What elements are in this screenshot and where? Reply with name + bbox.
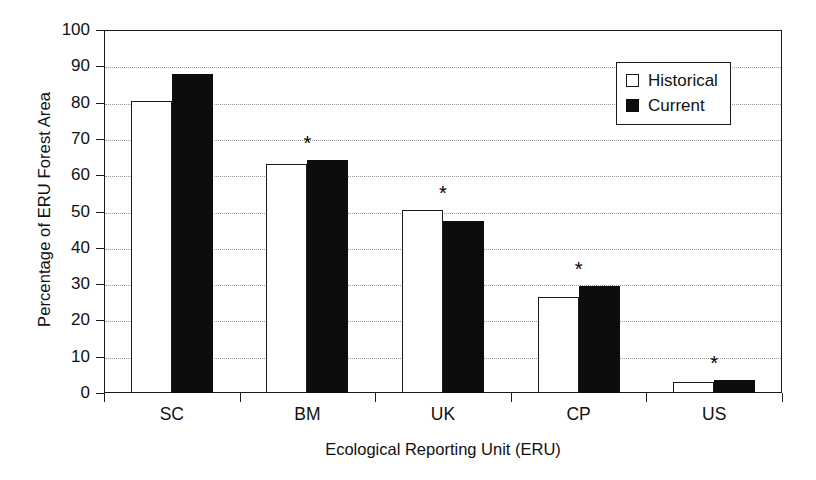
- y-axis-tick: [96, 175, 105, 176]
- y-axis-tick-label: 100: [28, 21, 90, 38]
- significance-marker-us: *: [704, 353, 724, 373]
- filled-square-icon: [626, 99, 639, 112]
- significance-marker-cp: *: [569, 259, 589, 279]
- bar-cp-current: [579, 286, 620, 393]
- bar-uk-historical: [402, 210, 443, 393]
- x-axis-tick: [782, 393, 783, 402]
- y-axis-tick-label: 90: [28, 57, 90, 74]
- x-axis-tick-label-us: US: [654, 404, 774, 425]
- y-axis-tick: [96, 30, 105, 31]
- y-axis-tick: [96, 103, 105, 104]
- x-axis-tick: [511, 393, 512, 402]
- y-axis-tick: [96, 320, 105, 321]
- significance-marker-uk: *: [433, 183, 453, 203]
- x-axis-tick-label-uk: UK: [383, 404, 503, 425]
- bar-us-current: [714, 380, 755, 393]
- x-axis-tick: [240, 393, 241, 402]
- bar-bm-current: [307, 160, 348, 393]
- chart-legend: Historical Current: [616, 62, 731, 125]
- bar-chart-figure: Percentage of ERU Forest Area 0102030405…: [0, 0, 816, 480]
- y-axis-tick: [96, 284, 105, 285]
- x-axis-tick: [375, 393, 376, 402]
- y-axis-tick: [96, 139, 105, 140]
- open-square-icon: [626, 74, 639, 87]
- y-axis-tick: [96, 248, 105, 249]
- x-axis-tick-label-cp: CP: [519, 404, 639, 425]
- legend-item-historical: Historical: [626, 68, 718, 93]
- y-axis-tick-label: 50: [28, 203, 90, 220]
- y-axis-tick: [96, 357, 105, 358]
- y-axis-tick-label: 30: [28, 275, 90, 292]
- legend-label-historical: Historical: [648, 72, 718, 89]
- y-axis-tick-label: 60: [28, 166, 90, 183]
- legend-item-current: Current: [626, 93, 718, 118]
- y-axis-tick-label: 80: [28, 94, 90, 111]
- y-axis-tick-label: 40: [28, 239, 90, 256]
- significance-marker-bm: *: [297, 133, 317, 153]
- y-axis-tick-label: 10: [28, 348, 90, 365]
- y-axis-tick: [96, 66, 105, 67]
- y-axis-tick-label: 20: [28, 311, 90, 328]
- bar-us-historical: [673, 382, 714, 393]
- x-axis-tick: [104, 393, 105, 402]
- bar-uk-current: [443, 221, 484, 393]
- x-axis-tick: [646, 393, 647, 402]
- y-axis-tick-label: 0: [28, 384, 90, 401]
- bar-sc-historical: [131, 101, 172, 393]
- x-axis-tick-label-sc: SC: [112, 404, 232, 425]
- legend-label-current: Current: [648, 97, 705, 114]
- x-axis-tick-label-bm: BM: [247, 404, 367, 425]
- x-axis-title: Ecological Reporting Unit (ERU): [104, 440, 782, 459]
- y-axis-tick: [96, 212, 105, 213]
- bar-bm-historical: [266, 164, 307, 393]
- bar-sc-current: [172, 74, 213, 393]
- y-axis-tick-label: 70: [28, 130, 90, 147]
- bar-cp-historical: [538, 297, 579, 393]
